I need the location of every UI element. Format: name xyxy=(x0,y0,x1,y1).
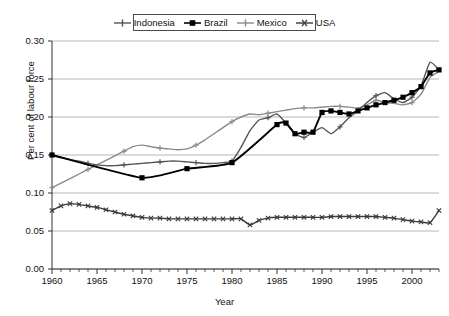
series-marker xyxy=(391,98,396,103)
series-marker xyxy=(301,130,306,135)
series-marker xyxy=(319,110,324,115)
series-line xyxy=(52,70,439,178)
series-marker xyxy=(49,152,54,157)
plot-area xyxy=(0,0,449,316)
series-mexico xyxy=(49,71,439,190)
series-line xyxy=(52,204,439,225)
series-marker xyxy=(229,160,234,165)
series-marker xyxy=(328,108,333,113)
series-marker xyxy=(364,105,369,110)
series-line xyxy=(52,62,439,166)
series-marker xyxy=(427,70,432,75)
series-brazil xyxy=(49,67,441,180)
series-indonesia xyxy=(49,62,439,167)
chart-figure: Indonesia Brazil Mexico USA Per cent xyxy=(0,0,449,316)
series-marker xyxy=(436,67,441,72)
series-marker xyxy=(184,166,189,171)
series-usa xyxy=(50,201,441,227)
series-marker xyxy=(274,122,279,127)
series-marker xyxy=(418,84,423,89)
series-marker xyxy=(346,111,351,116)
series-marker xyxy=(373,102,378,107)
series-marker xyxy=(310,130,315,135)
series-marker xyxy=(292,131,297,136)
series-marker xyxy=(337,110,342,115)
series-marker xyxy=(382,100,387,105)
series-marker xyxy=(283,120,288,125)
series-marker xyxy=(400,95,405,100)
series-marker xyxy=(409,90,414,95)
series-marker xyxy=(139,175,144,180)
series-marker xyxy=(355,108,360,113)
